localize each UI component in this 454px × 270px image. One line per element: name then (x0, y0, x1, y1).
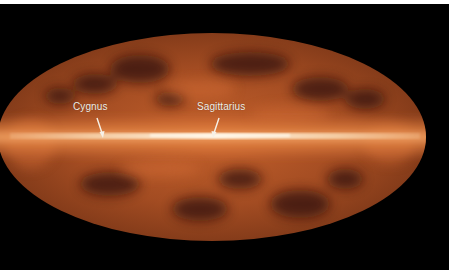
all-sky-map (0, 4, 449, 270)
sky-map-frame: Cygnus Sagittarius (0, 4, 449, 270)
cygnus-label: Cygnus (73, 101, 108, 112)
sagittarius-label: Sagittarius (197, 101, 245, 112)
